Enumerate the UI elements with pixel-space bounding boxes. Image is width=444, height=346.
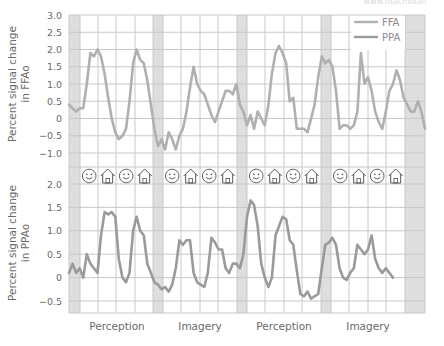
ffa-y-tick: −1.0 xyxy=(39,148,62,159)
ffa-y-axis-label-line2: in FFAo xyxy=(19,65,31,102)
house-icon xyxy=(221,169,235,183)
baseline-band xyxy=(405,15,425,313)
house-icon xyxy=(184,169,198,183)
house-icon xyxy=(352,169,366,183)
ppa-trace xyxy=(69,200,393,298)
ffa-y-tick: 2.0 xyxy=(47,44,62,55)
house-icon xyxy=(305,169,319,183)
baseline-band xyxy=(153,15,163,313)
face-icon xyxy=(202,169,216,183)
ffa-y-axis-label-line1: Percent signal change xyxy=(6,26,18,142)
ppa-y-tick: 2.0 xyxy=(47,179,62,190)
house-icon xyxy=(389,169,403,183)
face-icon xyxy=(370,169,384,183)
face-icon xyxy=(119,169,133,183)
condition-label-perception: Perception xyxy=(256,320,312,332)
ppa-y-axis-label-line2: in PPAo xyxy=(19,224,31,262)
condition-label-imagery: Imagery xyxy=(178,320,221,332)
condition-label-imagery: Imagery xyxy=(346,320,389,332)
face-icon xyxy=(165,169,179,183)
face-icon xyxy=(82,169,96,183)
ppa-y-tick: 0.5 xyxy=(47,249,62,260)
ffa-y-tick: 0.5 xyxy=(47,96,62,107)
ppa-y-tick: 0 xyxy=(56,272,62,283)
ffa-y-axis: 3.02.52.01.51.00.50−0.5−1.0 xyxy=(39,10,62,159)
fmri-signal-chart: 3.02.52.01.51.00.50−0.5−1.0 2.01.51.00.5… xyxy=(0,0,444,346)
ffa-y-tick: 1.5 xyxy=(47,61,62,72)
condition-label-perception: Perception xyxy=(89,320,145,332)
watermark: www.macmillan xyxy=(364,0,427,6)
house-icon xyxy=(138,169,152,183)
ffa-y-tick: 3.0 xyxy=(47,10,62,21)
face-icon xyxy=(286,169,300,183)
ppa-y-axis: 2.01.51.00.50−0.5 xyxy=(39,179,62,307)
legend: FFAPPA xyxy=(351,16,405,50)
condition-labels: PerceptionImageryPerceptionImagery xyxy=(89,320,389,332)
legend-label-ffa: FFA xyxy=(382,17,400,28)
ppa-y-tick: −0.5 xyxy=(39,296,62,307)
face-icon xyxy=(333,169,347,183)
ppa-y-tick: 1.0 xyxy=(47,225,62,236)
ffa-y-tick: 2.5 xyxy=(47,27,62,38)
ppa-y-axis-label-line1: Percent signal change xyxy=(6,185,18,301)
ffa-y-tick: 0 xyxy=(56,113,62,124)
legend-label-ppa: PPA xyxy=(382,32,400,43)
house-icon xyxy=(101,169,115,183)
house-icon xyxy=(268,169,282,183)
ffa-y-tick: 1.0 xyxy=(47,79,62,90)
ffa-y-tick: −0.5 xyxy=(39,130,62,141)
face-icon xyxy=(249,169,263,183)
ppa-y-tick: 1.5 xyxy=(47,202,62,213)
chart-grid xyxy=(69,15,425,313)
